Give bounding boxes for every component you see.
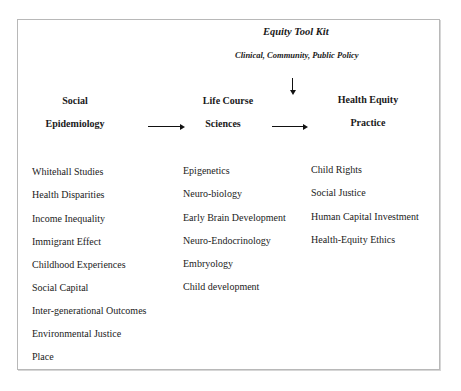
list-item: Income Inequality: [32, 213, 105, 224]
list-item: Embryology: [183, 258, 233, 269]
down-arrow-icon: [292, 78, 293, 93]
list-item: Inter-generational Outcomes: [32, 305, 146, 316]
toolkit-subtitle: Clinical, Community, Public Policy: [235, 50, 359, 60]
right-arrow-icon: [272, 126, 306, 127]
list-item: Neuro-biology: [183, 188, 242, 199]
list-item: Whitehall Studies: [32, 166, 103, 177]
list-item: Child Rights: [311, 164, 362, 175]
heading-lifecourse-line2: Sciences: [188, 118, 258, 129]
heading-lifecourse-line1: Life Course: [188, 95, 268, 106]
heading-healthequity-line1: Health Equity: [328, 94, 408, 105]
list-item: Neuro-Endocrinology: [183, 235, 271, 246]
list-item: Place: [32, 351, 54, 362]
list-item: Social Capital: [32, 282, 88, 293]
list-item: Health-Equity Ethics: [311, 234, 395, 245]
list-item: Immigrant Effect: [32, 236, 101, 247]
list-item: Epigenetics: [183, 165, 230, 176]
toolkit-title: Equity Tool Kit: [263, 26, 461, 37]
list-item: Early Brain Development: [183, 212, 286, 223]
list-item: Social Justice: [311, 187, 366, 198]
heading-social-line2: Epidemiology: [35, 118, 115, 129]
list-item: Environmental Justice: [32, 328, 121, 339]
list-item: Childhood Experiences: [32, 259, 126, 270]
right-arrow-icon: [148, 126, 183, 127]
list-item: Human Capital Investment: [311, 211, 419, 222]
heading-social-line1: Social: [40, 95, 110, 106]
list-item: Health Disparities: [32, 189, 104, 200]
list-item: Child development: [183, 281, 259, 292]
heading-healthequity-line2: Practice: [328, 117, 408, 128]
